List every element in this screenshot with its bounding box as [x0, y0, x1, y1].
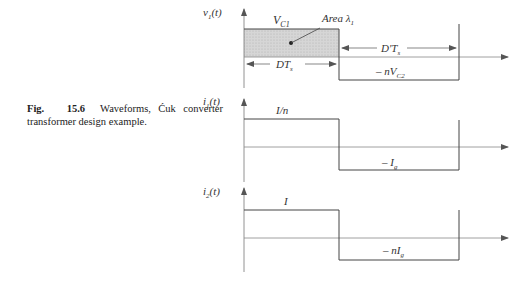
panel-v1: v1(t) VC1 Area λ1 DTs D'Ts – nVC2	[203, 6, 508, 88]
i-level-label: I	[283, 195, 289, 207]
v1-axis-label: v1(t)	[203, 6, 222, 21]
area-label: Area λ1	[321, 12, 354, 27]
i1-axis-label: i1(t)	[203, 95, 220, 110]
neg-ig-label: – Ig	[381, 156, 398, 171]
i-over-n-label: I/n	[275, 104, 289, 116]
dpts-label: D'Ts	[380, 42, 400, 57]
neg-nvc2-label: – nVC2	[375, 65, 405, 80]
dts-label: DTs	[275, 58, 293, 73]
i2-waveform	[244, 210, 459, 260]
panel-i1: i1(t) I/n – Ig	[203, 95, 508, 182]
vc1-label: VC1	[273, 13, 290, 29]
waveform-diagram: v1(t) VC1 Area λ1 DTs D'Ts – nVC2 i1(t) …	[0, 0, 526, 283]
i2-axis-label: i2(t)	[203, 185, 220, 200]
i1-waveform	[244, 119, 459, 170]
neg-nig-label: – nIg	[382, 244, 404, 259]
panel-i2: i2(t) I – nIg	[203, 185, 508, 272]
